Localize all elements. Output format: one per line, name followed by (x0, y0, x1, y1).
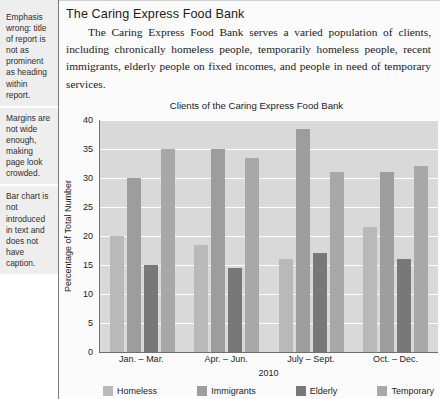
bar-elderly (144, 265, 158, 352)
chart-area: Percentage of Total Number 0510152025303… (63, 120, 438, 378)
bar-homeless (110, 236, 124, 352)
legend-swatch (103, 386, 113, 396)
bar-immigrants (380, 172, 394, 352)
y-axis-ticks: 0510152025303540 (75, 120, 97, 352)
x-axis-labels: Jan. – Mar.Apr. – Jun.July – Sept.Oct. –… (99, 354, 438, 364)
document-review-page: Emphasis wrong: title of report is not a… (0, 0, 440, 399)
y-axis-tick-label: 10 (83, 289, 93, 299)
legend-label: Elderly (310, 386, 338, 396)
bar-temporary (161, 149, 175, 352)
y-axis-tick-label: 0 (88, 347, 93, 357)
bar-immigrants (296, 129, 310, 352)
annotation-note: Margins are not wide enough, making page… (0, 108, 58, 187)
bar-elderly (397, 259, 411, 352)
y-axis-tick-label: 5 (88, 318, 93, 328)
y-axis-tick-label: 35 (83, 144, 93, 154)
bar-temporary (330, 172, 344, 352)
bar-groups (100, 120, 438, 352)
chart-legend: HomelessImmigrantsElderlyTemporary (103, 386, 434, 396)
annotation-sidebar: Emphasis wrong: title of report is not a… (0, 0, 59, 399)
legend-swatch (197, 386, 207, 396)
y-axis-tick-label: 40 (83, 115, 93, 125)
y-axis-tick-label: 25 (83, 202, 93, 212)
y-axis-title: Percentage of Total Number (61, 120, 75, 352)
bar-homeless (194, 245, 208, 352)
y-axis-tick-label: 15 (83, 260, 93, 270)
bar-elderly (313, 253, 327, 352)
bar-temporary (245, 158, 259, 352)
x-axis-tick-label: July – Sept. (269, 354, 354, 364)
legend-item-elderly: Elderly (296, 386, 338, 396)
chart-figure: Clients of the Caring Express Food Bank … (59, 100, 440, 378)
document-body-paragraph: The Caring Express Food Bank serves a va… (59, 21, 440, 93)
annotation-note: Bar chart is not introduced in text and … (0, 186, 58, 276)
bar-group (269, 120, 354, 352)
bar-group (100, 120, 185, 352)
y-axis-title-text: Percentage of Total Number (63, 180, 73, 292)
bar-elderly (228, 268, 242, 352)
x-axis-title: 2010 (99, 368, 438, 378)
legend-swatch (377, 386, 387, 396)
legend-item-homeless: Homeless (103, 386, 157, 396)
document-title: The Caring Express Food Bank (59, 1, 440, 21)
bar-homeless (279, 259, 293, 352)
legend-item-temporary: Temporary (377, 386, 434, 396)
bar-homeless (363, 227, 377, 352)
y-axis-tick-label: 30 (83, 173, 93, 183)
legend-label: Temporary (391, 386, 434, 396)
x-axis-tick-label: Oct. – Dec. (353, 354, 438, 364)
plot-area (99, 120, 438, 353)
y-axis-tick-label: 20 (83, 231, 93, 241)
bar-group (354, 120, 439, 352)
document-panel: The Caring Express Food Bank The Caring … (59, 0, 440, 399)
x-axis-tick-label: Jan. – Mar. (99, 354, 184, 364)
annotation-note: Emphasis wrong: title of report is not a… (0, 0, 58, 108)
legend-label: Immigrants (211, 386, 256, 396)
bar-immigrants (211, 149, 225, 352)
paragraph-text: The Caring Express Food Bank serves a va… (66, 26, 431, 90)
legend-swatch (296, 386, 306, 396)
bar-group (185, 120, 270, 352)
x-axis-tick-label: Apr. – Jun. (184, 354, 269, 364)
legend-label: Homeless (117, 386, 157, 396)
bar-temporary (414, 166, 428, 352)
chart-title: Clients of the Caring Express Food Bank (73, 100, 440, 111)
bar-immigrants (127, 178, 141, 352)
legend-item-immigrants: Immigrants (197, 386, 256, 396)
